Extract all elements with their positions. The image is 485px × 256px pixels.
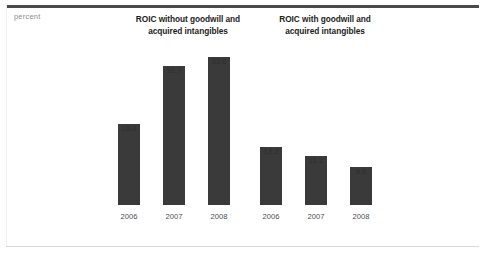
plot-area: ROIC without goodwill and acquired intan…	[0, 0, 485, 256]
bar-value-label: 31.7	[151, 66, 197, 75]
chart-figure: percent ROIC without goodwill and acquir…	[0, 0, 485, 256]
bar-category-label: 2006	[248, 212, 294, 221]
bar-value-label: 18.4	[106, 124, 152, 133]
bar-slot: 33.6 2008	[208, 57, 230, 205]
bar-value-label: 8.6	[338, 167, 384, 176]
bar[interactable]	[163, 66, 185, 205]
bar-value-label: 13.2	[248, 147, 294, 156]
bar-group-with-goodwill: ROIC with goodwill and acquired intangib…	[255, 14, 395, 242]
bar-category-label: 2006	[106, 212, 152, 221]
bar-slot: 31.7 2007	[163, 66, 185, 205]
bar-category-label: 2007	[293, 212, 339, 221]
bar-slot: 18.4 2006	[118, 124, 140, 205]
bar-category-label: 2007	[151, 212, 197, 221]
bar-category-label: 2008	[338, 212, 384, 221]
bar-slot: 13.2 2006	[260, 147, 282, 205]
bars-container: 13.2 2006 11.1 2007 8.6 2008	[255, 14, 395, 242]
bar-group-without-goodwill: ROIC without goodwill and acquired intan…	[118, 14, 258, 242]
bar[interactable]	[208, 57, 230, 205]
bar-slot: 8.6 2008	[350, 167, 372, 205]
bar-category-label: 2008	[196, 212, 242, 221]
bar[interactable]	[118, 124, 140, 205]
bar-value-label: 11.1	[293, 156, 339, 165]
bar-value-label: 33.6	[196, 57, 242, 66]
bars-container: 18.4 2006 31.7 2007 33.6 2008	[118, 14, 258, 242]
bar-slot: 11.1 2007	[305, 156, 327, 205]
